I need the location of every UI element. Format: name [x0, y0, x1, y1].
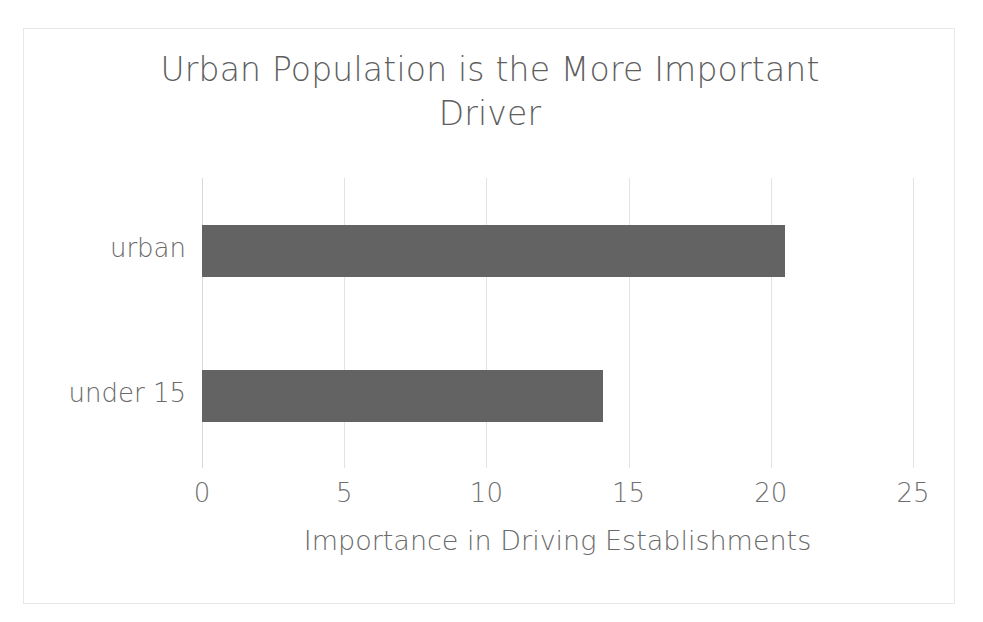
value-axis-tick-labels: 0 5 10 15 20 25 [202, 478, 913, 518]
bars-layer [202, 178, 913, 468]
bar-urban[interactable] [202, 225, 785, 277]
category-label-urban: urban [6, 233, 186, 263]
tick-label-10: 10 [446, 478, 526, 508]
bar-chart-figure: Urban Population is the More Important D… [0, 0, 983, 622]
bar-under-15[interactable] [202, 370, 603, 422]
tick-label-5: 5 [304, 478, 384, 508]
tick-label-15: 15 [589, 478, 669, 508]
tick-label-20: 20 [731, 478, 811, 508]
chart-title: Urban Population is the More Important D… [60, 48, 920, 136]
value-axis-title: Importance in Driving Establishments [202, 525, 913, 556]
plot-area [202, 178, 913, 468]
tick-label-0: 0 [162, 478, 242, 508]
tick-label-25: 25 [873, 478, 953, 508]
gridline-25 [913, 178, 914, 468]
category-axis-labels: urban under 15 [0, 178, 186, 468]
category-label-under-15: under 15 [6, 378, 186, 408]
